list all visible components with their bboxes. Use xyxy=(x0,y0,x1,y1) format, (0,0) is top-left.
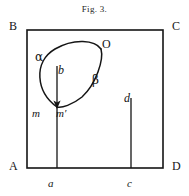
baseline-point-label-c: c xyxy=(127,178,132,189)
arc-label-beta: β xyxy=(92,74,99,86)
segment-label-d: d xyxy=(124,92,130,104)
vertex-label-d-bottom-right: D xyxy=(172,160,181,172)
diagram-drawing xyxy=(0,0,189,196)
base-point-label-m: m xyxy=(32,108,40,119)
interior-point-label-b: b xyxy=(58,64,64,76)
baseline-point-label-a: a xyxy=(48,178,54,189)
figure-container: Fig. 3. B C A D O α β b m m′ d a c xyxy=(0,0,189,196)
vertex-label-c-top-right: C xyxy=(172,20,180,32)
arc-label-alpha: α xyxy=(35,51,43,63)
vertex-label-b-top-left: B xyxy=(9,20,17,32)
curve-apex-label-o: O xyxy=(102,38,111,50)
base-point-label-m-prime: m′ xyxy=(56,108,66,119)
vertex-label-a-bottom-left: A xyxy=(9,160,18,172)
